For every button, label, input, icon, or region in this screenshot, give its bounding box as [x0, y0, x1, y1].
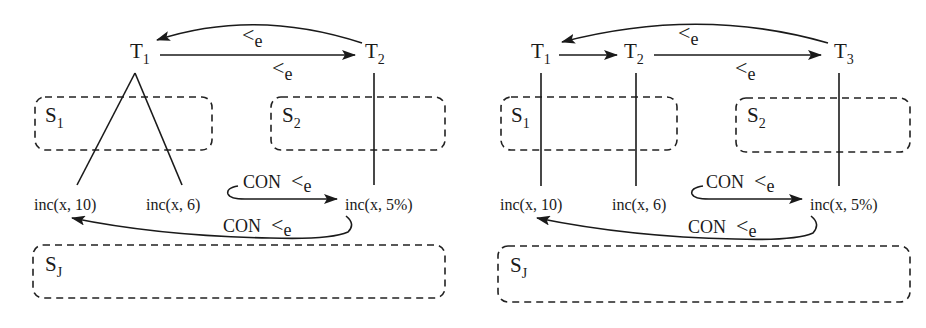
diagram-canvas: T1 T2 <e <e S1 S2 inc(x, 10) inc(x, 6) i…	[0, 0, 926, 328]
left-op-inc-6: inc(x, 6)	[146, 196, 200, 214]
left-site-sj-label: SJ	[45, 252, 63, 280]
right-diagram: T1 T2 T3 <e <e S1 S2 inc(x, 10) inc(x, 6…	[498, 20, 910, 302]
left-t1-branch-left	[77, 73, 135, 185]
right-site-sj-box	[498, 246, 910, 302]
right-t3-node: T3	[834, 39, 854, 67]
left-diagram: T1 T2 <e <e S1 S2 inc(x, 10) inc(x, 6) i…	[33, 22, 445, 298]
left-site-s1-label: S1	[45, 103, 64, 131]
right-op-inc-10: inc(x, 10)	[500, 196, 562, 214]
left-t1-node: T1	[130, 39, 150, 67]
right-site-s2-label: S2	[747, 103, 766, 131]
right-op-inc-5pct: inc(x, 5%)	[810, 196, 878, 214]
left-site-sj-box	[33, 245, 445, 298]
right-t1-node: T1	[531, 39, 551, 67]
right-op-inc-6: inc(x, 6)	[612, 196, 666, 214]
right-con-arrow-6-to-5pct-label: CON<e	[706, 168, 774, 196]
left-op-inc-10: inc(x, 10)	[34, 196, 96, 214]
right-site-sj-label: SJ	[510, 253, 528, 281]
left-con-arrow-6-to-5pct-label: CON<e	[243, 168, 311, 196]
right-site-s1-label: S1	[511, 103, 530, 131]
right-con-arrow-5pct-to-10	[537, 216, 817, 239]
left-arrow-t1-t2-label: <e	[272, 55, 292, 84]
left-con-arrow-5pct-to-10	[72, 216, 352, 238]
left-arc-t2-t1-label: <e	[242, 22, 262, 51]
left-con-arrow-5pct-to-10-label: CON<e	[223, 212, 291, 240]
left-t1-branch-right	[135, 73, 182, 185]
left-site-s2-label: S2	[282, 103, 301, 131]
right-con-arrow-5pct-to-10-label: CON<e	[688, 213, 756, 241]
right-arrow-t2-t3-label: <e	[735, 55, 755, 84]
left-op-inc-5pct: inc(x, 5%)	[345, 196, 413, 214]
right-t2-node: T2	[624, 39, 644, 67]
left-t2-node: T2	[365, 39, 385, 67]
